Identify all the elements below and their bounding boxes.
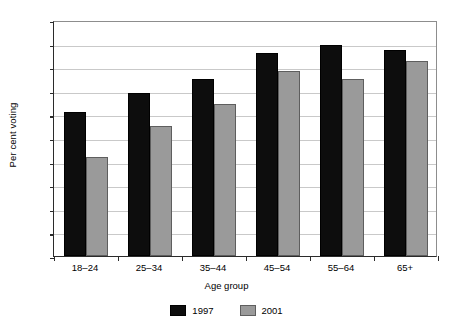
y-tick-mark	[50, 69, 55, 70]
x-tick-mark	[54, 256, 55, 261]
y-tick-mark	[50, 116, 55, 117]
gridline	[54, 164, 436, 165]
legend-swatch-2001	[240, 305, 256, 316]
legend-entry-2001: 2001	[240, 305, 283, 316]
y-tick-mark	[50, 187, 55, 188]
legend-entry-1997: 1997	[170, 305, 213, 316]
legend-swatch-1997	[170, 305, 186, 316]
gridline	[54, 116, 436, 117]
x-tick-mark	[374, 256, 375, 261]
gridline	[54, 46, 436, 47]
y-tick-mark	[50, 164, 55, 165]
x-axis-title: Age group	[0, 281, 453, 291]
x-tick-mark	[118, 256, 119, 261]
bar-1997-65+	[384, 50, 406, 257]
gridline	[54, 211, 436, 212]
bar-2001-25–34	[150, 126, 172, 256]
gridline	[54, 234, 436, 235]
y-axis-title: Per cent voting	[8, 75, 18, 195]
y-tick-mark	[50, 46, 55, 47]
y-tick-mark	[50, 22, 55, 23]
legend-label-1997: 1997	[192, 306, 213, 316]
bar-2001-65+	[406, 61, 428, 256]
bar-1997-25–34	[128, 93, 150, 256]
chart-legend: 1997 2001	[0, 305, 453, 316]
gridline	[54, 187, 436, 188]
x-tick-mark	[310, 256, 311, 261]
y-tick-mark	[50, 93, 55, 94]
bar-2001-55–64	[342, 79, 364, 256]
bar-1997-18–24	[64, 112, 86, 256]
x-tick-mark	[182, 256, 183, 261]
gridline	[54, 69, 436, 70]
x-tick-mark	[246, 256, 247, 261]
bar-2001-45–54	[278, 71, 300, 256]
bar-1997-55–64	[320, 45, 342, 256]
y-tick-mark	[50, 234, 55, 235]
bar-2001-18–24	[86, 157, 108, 256]
bar-chart: Per cent voting 0102030405060708090100 1…	[0, 0, 453, 336]
y-tick-mark	[50, 211, 55, 212]
plot-area	[53, 21, 437, 257]
legend-label-2001: 2001	[262, 306, 283, 316]
x-tick-mark	[438, 256, 439, 261]
bar-2001-35–44	[214, 104, 236, 256]
gridline	[54, 140, 436, 141]
y-tick-mark	[50, 140, 55, 141]
bar-1997-35–44	[192, 79, 214, 256]
bar-1997-45–54	[256, 53, 278, 256]
gridline	[54, 93, 436, 94]
x-tick-label: 65+	[365, 263, 445, 273]
